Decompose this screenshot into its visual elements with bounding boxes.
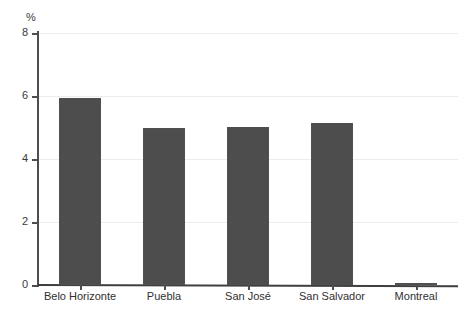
x-axis-category-label: San José [225, 290, 271, 303]
x-axis-category-label: Montreal [395, 290, 438, 303]
bar [311, 123, 353, 285]
y-axis-unit-label: % [26, 12, 36, 23]
bar [59, 98, 101, 285]
plot-area [38, 33, 458, 285]
y-tick-label: 2 [4, 216, 28, 227]
y-tick-label: 8 [4, 27, 28, 38]
y-tick-label: 0 [4, 279, 28, 290]
y-tick-label: 6 [4, 90, 28, 101]
bar [227, 127, 269, 285]
x-axis-category-label: San Salvador [299, 290, 365, 303]
y-tick-label: 4 [4, 153, 28, 164]
bar-chart-figure: % 02468 Belo HorizontePueblaSan JoséSan … [0, 0, 464, 312]
x-axis-category-label: Puebla [147, 290, 181, 303]
x-axis-category-label: Belo Horizonte [44, 290, 116, 303]
bar [143, 128, 185, 286]
